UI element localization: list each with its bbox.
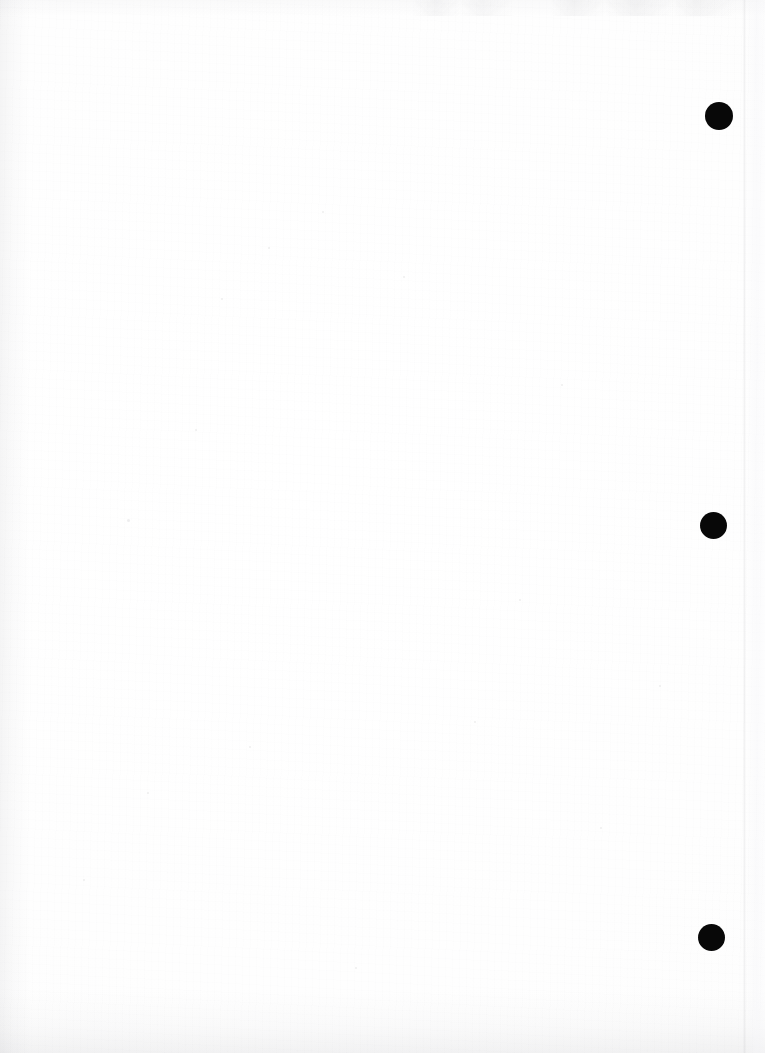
registration-mark-dot [705, 102, 733, 130]
scanned-page [0, 0, 765, 1053]
page-body-text [70, 70, 670, 970]
registration-mark-dot [700, 512, 727, 539]
registration-mark-dot [698, 924, 725, 951]
